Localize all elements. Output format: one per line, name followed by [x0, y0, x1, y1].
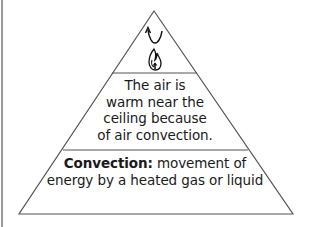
bottom-tier-line-1: Convection: movement of	[40, 155, 270, 172]
middle-tier-line-1: The air is	[84, 77, 226, 94]
middle-tier-line-4: of air convection.	[84, 127, 226, 144]
middle-tier-line-3: ceiling because	[84, 110, 226, 127]
definition-term: Convection:	[64, 155, 153, 171]
bottom-tier-line-2: energy by a heated gas or liquid	[40, 172, 270, 189]
middle-tier-text: The air is warm near the ceiling because…	[84, 77, 226, 143]
bottom-tier-text: Convection: movement of energy by a heat…	[40, 155, 270, 188]
definition-text-part-1: movement of	[153, 155, 246, 171]
middle-tier-line-2: warm near the	[84, 94, 226, 111]
